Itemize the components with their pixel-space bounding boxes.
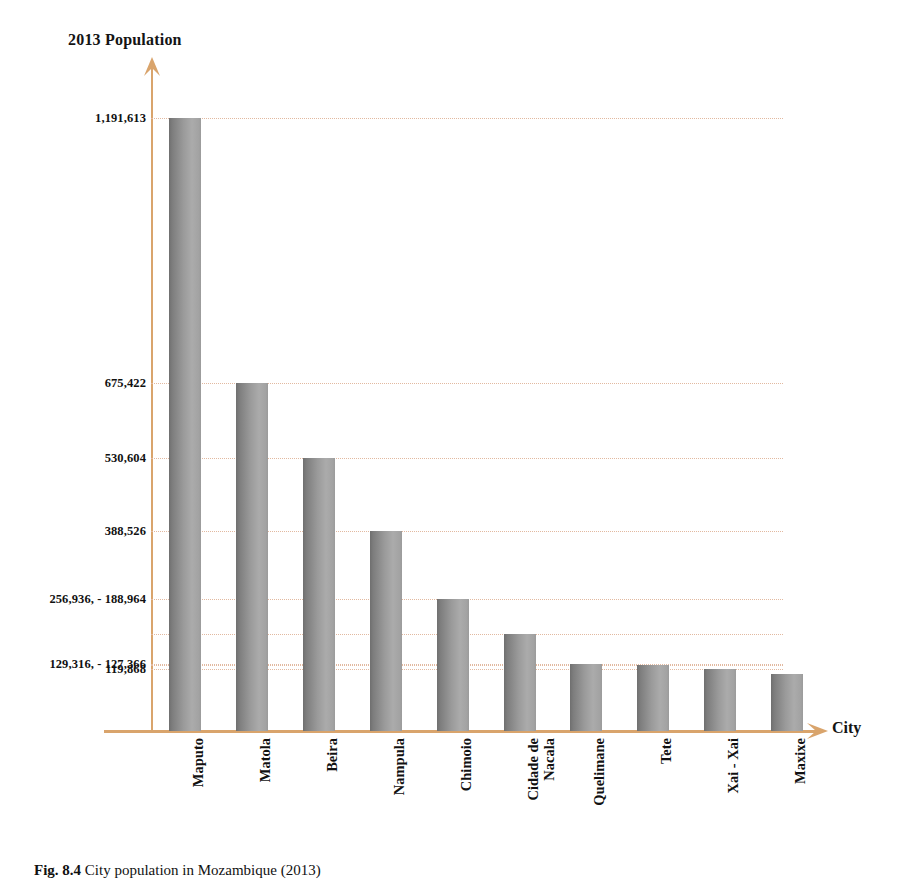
y-axis-tick-label: 256,936, - 188,964	[49, 591, 146, 606]
figure-caption: Fig. 8.4 City population in Mozambique (…	[34, 862, 321, 879]
bar	[303, 458, 335, 731]
y-axis-tick-label: 530,604	[105, 450, 146, 465]
y-axis-tick-labels: 1,191,613675,422530,604388,526256,936, -…	[0, 62, 146, 731]
bar	[570, 664, 602, 731]
bar	[169, 118, 201, 731]
x-axis-category-label: Tete	[659, 738, 675, 858]
x-axis-category-labels: MaputoMatolaBeiraNampulaChimoioCidade de…	[151, 738, 820, 858]
x-axis-category-label: Beira	[325, 738, 341, 858]
figure-caption-text: City population in Mozambique (2013)	[85, 862, 321, 878]
y-axis-tick-label: 388,526	[105, 524, 146, 539]
bar	[771, 674, 803, 731]
x-axis-category-label: Maputo	[191, 738, 207, 858]
x-axis-category-label: Matola	[258, 738, 274, 858]
bar	[704, 669, 736, 731]
x-axis-category-label: Cidade de Nacala	[526, 738, 557, 858]
y-axis-tick-label: 119,868	[105, 662, 146, 677]
x-axis-category-label: Nampula	[392, 738, 408, 858]
x-axis-title: City	[832, 719, 861, 737]
y-axis-tick-label: 1,191,613	[95, 110, 146, 125]
x-axis-category-label: Maxixe	[793, 738, 809, 858]
bar	[637, 665, 669, 731]
x-axis-category-label: Chimoio	[459, 738, 475, 858]
x-axis-category-label: Quelimane	[592, 738, 608, 858]
y-axis-title: 2013 Population	[68, 31, 182, 49]
bar	[370, 531, 402, 731]
bar	[236, 383, 268, 731]
x-axis-category-label: Xai - Xai	[726, 738, 742, 858]
figure-number: Fig. 8.4	[34, 862, 81, 878]
bar	[504, 634, 536, 731]
y-axis-tick-label: 675,422	[105, 376, 146, 391]
bar-series	[151, 62, 820, 731]
figure-container: 2013 Population City 1,191,613675,422530…	[0, 0, 901, 881]
bar	[437, 599, 469, 731]
